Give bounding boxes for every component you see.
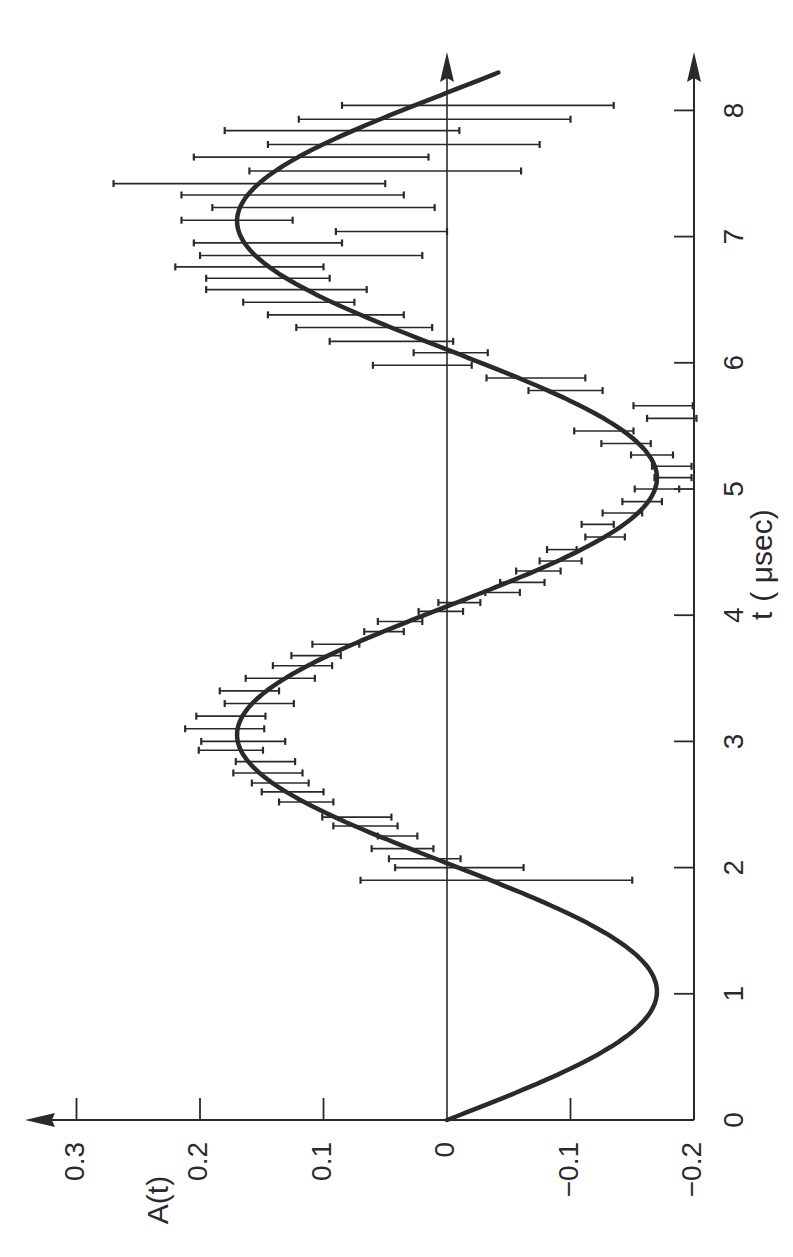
zero-line-arrow-icon — [440, 52, 454, 82]
error-bars — [114, 102, 697, 884]
error-bar — [622, 498, 662, 505]
error-bar — [268, 141, 540, 148]
a-tick-label: 0.1 — [306, 1142, 337, 1181]
error-bar — [206, 286, 367, 293]
error-bar — [582, 521, 614, 528]
t-tick-label: 2 — [718, 860, 749, 876]
a-tick-label: 0.3 — [59, 1142, 90, 1181]
error-bar — [249, 167, 521, 174]
error-bar — [652, 463, 692, 470]
error-bar — [487, 374, 586, 381]
error-bar — [268, 311, 404, 318]
t-tick-label: 0 — [718, 1112, 749, 1128]
error-bar — [296, 324, 432, 331]
error-bar — [654, 474, 691, 481]
error-bar — [194, 239, 342, 246]
t-tick-label: 1 — [718, 986, 749, 1002]
t-axis-symbol: t — [745, 611, 778, 620]
t-axis-arrow-icon — [687, 52, 701, 82]
error-bar — [194, 154, 429, 161]
a-tick-label: 0.2 — [182, 1142, 213, 1181]
error-bar — [185, 725, 264, 732]
error-bar — [175, 263, 323, 270]
a-tick-label: −0.2 — [676, 1142, 707, 1197]
t-tick-label: 6 — [718, 355, 749, 371]
error-bar — [201, 738, 285, 745]
zero-line — [440, 52, 454, 1120]
error-bar — [225, 700, 294, 707]
error-bar — [206, 275, 329, 282]
error-bar — [373, 362, 472, 369]
error-bar — [114, 180, 386, 187]
t-axis-title: t( μsec) — [745, 509, 778, 620]
t-axis-unit: ( μsec) — [745, 509, 778, 601]
a-tick-label: 0 — [429, 1142, 460, 1158]
error-bar — [647, 415, 696, 422]
error-bar — [212, 204, 434, 211]
a-tick-label: −0.1 — [553, 1142, 584, 1197]
axes — [25, 52, 701, 1127]
error-bar — [299, 116, 571, 123]
t-tick-label: 3 — [718, 734, 749, 750]
error-bar — [200, 252, 422, 259]
error-bar — [233, 769, 302, 776]
error-bar — [181, 191, 403, 198]
a-axis-title: A(t) — [141, 1176, 174, 1224]
t-tick-label: 7 — [718, 229, 749, 245]
t-tick-label: 5 — [718, 481, 749, 497]
t-axis-ticks: 012345678 — [674, 103, 749, 1128]
chart: 012345678 0.30.20.10−0.1−0.2 t( μsec) A(… — [0, 0, 793, 1257]
a-axis-arrow-icon — [25, 1113, 55, 1127]
t-tick-label: 8 — [718, 103, 749, 119]
error-bar — [196, 713, 265, 720]
error-bar — [225, 127, 460, 134]
error-bar — [199, 747, 263, 754]
error-bar — [633, 402, 692, 409]
error-bar — [336, 228, 447, 235]
error-bar — [342, 102, 614, 109]
